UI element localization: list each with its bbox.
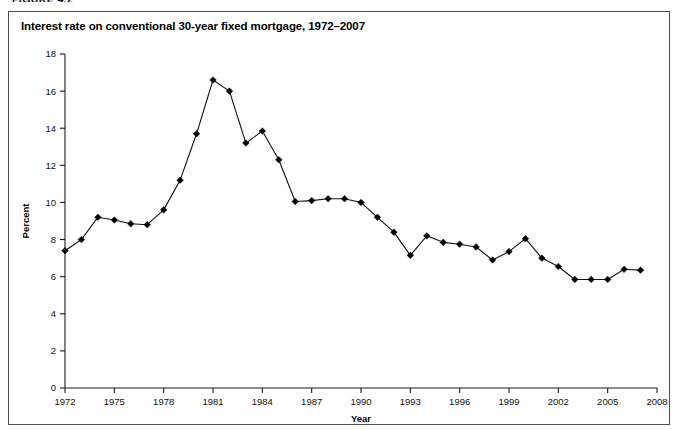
y-tick-label: 16 [45,86,56,97]
x-tick-label: 1972 [54,396,75,407]
data-point-marker [62,247,69,254]
data-point-marker [226,88,233,95]
line-chart: 0246810121416181972197519781981198419871… [9,40,669,424]
x-tick-label: 1999 [498,396,519,407]
x-tick-label: 1987 [301,396,322,407]
x-axis-title: Year [351,413,371,424]
chart-title: Interest rate on conventional 30-year fi… [21,20,365,32]
data-point-marker [193,130,200,137]
x-tick-label: 1993 [400,396,421,407]
data-point-marker [275,156,282,163]
plot-area: 0246810121416181972197519781981198419871… [9,40,669,424]
data-point-marker [292,198,299,205]
data-point-marker [604,276,611,283]
data-point-marker [325,195,332,202]
figure-container: FIGURE 4.2 Interest rate on conventional… [0,0,679,430]
figure-frame: Interest rate on conventional 30-year fi… [8,11,670,425]
x-tick-label: 2008 [646,396,667,407]
x-tick-label: 1996 [449,396,470,407]
x-tick-label: 2002 [548,396,569,407]
y-tick-label: 8 [51,234,56,245]
x-tick-label: 2005 [597,396,618,407]
y-tick-label: 4 [51,308,56,319]
data-point-marker [177,177,184,184]
x-tick-label: 1981 [202,396,223,407]
data-point-marker [341,195,348,202]
y-tick-label: 2 [51,345,56,356]
figure-number-label: FIGURE 4.2 [12,0,73,2]
data-point-marker [308,197,315,204]
x-tick-label: 1975 [104,396,125,407]
data-point-marker [210,77,217,84]
data-point-marker [111,217,118,224]
data-point-marker [588,276,595,283]
y-tick-label: 6 [51,271,56,282]
data-point-marker [637,267,644,274]
series-line [65,80,641,279]
x-tick-label: 1990 [350,396,371,407]
y-tick-label: 10 [45,197,56,208]
data-point-marker [621,266,628,273]
y-tick-label: 0 [51,382,56,393]
y-tick-label: 14 [45,123,56,134]
data-point-marker [456,241,463,248]
data-point-marker [127,220,134,227]
x-tick-label: 1984 [252,396,273,407]
x-tick-label: 1978 [153,396,174,407]
y-tick-label: 12 [45,160,56,171]
y-axis-title: Percent [20,203,31,239]
y-tick-label: 18 [45,48,56,59]
data-point-marker [440,239,447,246]
